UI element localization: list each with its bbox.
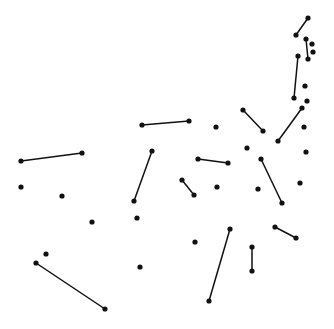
isolated-dot [302,83,307,88]
segment-endpoint [293,235,298,240]
isolated-dot [89,219,94,224]
segment-endpoint [275,138,280,143]
isolated-dot [43,251,48,256]
segment-endpoint [299,105,304,110]
segment-endpoint [272,224,277,229]
isolated-dot [297,180,302,185]
segment-line [261,159,282,203]
segment-endpoint [227,226,232,231]
segment-endpoint [102,306,107,311]
segment-line [134,151,152,201]
isolated-dot [309,41,314,46]
segment-endpoint [258,156,263,161]
segment-endpoint [79,150,84,155]
segment-endpoint [225,160,230,165]
segment-endpoint [279,200,284,205]
segment-line [275,227,296,238]
segment-endpoint [149,148,154,153]
segment-line [21,153,82,161]
isolated-dot [192,239,197,244]
isolated-dot [134,215,139,220]
segment-endpoint [260,128,265,133]
segment-line [142,121,189,125]
segment-line [306,39,308,59]
isolated-dot [59,193,64,198]
segment-endpoint [249,244,254,249]
segment-endpoint [18,158,23,163]
isolated-dot [214,184,219,189]
segment-line [36,263,105,309]
segment-endpoint [186,118,191,123]
isolated-dot [310,49,315,54]
isolated-dot [304,98,309,103]
segment-endpoint [291,95,296,100]
segment-endpoint [305,15,310,20]
segment-endpoint [191,192,196,197]
segment-endpoint [179,177,184,182]
segment-line [243,110,263,131]
segment-endpoint [249,268,254,273]
segment-line [182,180,194,195]
segment-endpoint [305,56,310,61]
segment-line [296,18,308,35]
segment-line [278,108,302,141]
segment-endpoint [33,260,38,265]
isolated-dot [303,149,308,154]
isolated-dot [18,184,23,189]
segment-endpoint [206,298,211,303]
segment-line [294,56,298,98]
isolated-dot [301,124,306,129]
segment-endpoint [195,156,200,161]
segment-endpoint [240,107,245,112]
segment-endpoint [131,198,136,203]
segment-endpoint [303,36,308,41]
segment-endpoint [295,53,300,58]
isolated-dot [213,124,218,129]
isolated-dot [244,145,249,150]
segment-line [198,159,228,163]
isolated-dot [137,264,142,269]
segment-endpoint [293,32,298,37]
dot-line-diagram [0,0,334,329]
segment-endpoint [139,122,144,127]
segment-line [209,229,230,301]
isolated-dot [255,186,260,191]
